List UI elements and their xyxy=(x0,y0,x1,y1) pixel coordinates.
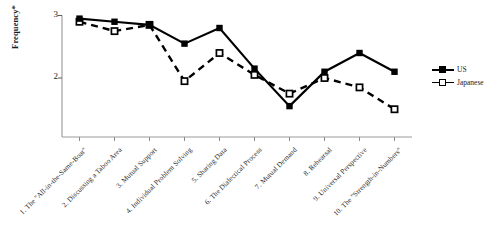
data-point-japanese-8 xyxy=(321,75,327,81)
chart-figure: Frequency* 3 2 1. The "All-in-the-Same-B… xyxy=(0,0,501,251)
legend-label-japanese: Japanese xyxy=(457,79,484,87)
data-point-us-7 xyxy=(286,103,292,109)
data-point-us-3 xyxy=(146,22,152,28)
series-line-us xyxy=(80,19,395,107)
data-point-japanese-2 xyxy=(111,28,117,34)
data-point-japanese-7 xyxy=(286,91,292,97)
data-point-us-8 xyxy=(321,69,327,75)
legend-item-us: US xyxy=(432,63,484,76)
series-us xyxy=(76,15,397,109)
x-axis-ticks xyxy=(80,137,395,141)
series-japanese xyxy=(76,19,397,113)
data-point-us-1 xyxy=(76,15,82,21)
data-point-japanese-9 xyxy=(356,84,362,90)
data-point-us-6 xyxy=(251,65,257,71)
legend-label-us: US xyxy=(457,66,467,74)
data-point-us-10 xyxy=(391,69,397,75)
data-point-us-9 xyxy=(356,50,362,56)
data-point-japanese-6 xyxy=(251,72,257,78)
data-point-japanese-4 xyxy=(181,78,187,84)
legend-item-japanese: Japanese xyxy=(432,76,484,89)
legend-marker-us-icon xyxy=(432,65,454,75)
data-point-japanese-5 xyxy=(216,50,222,56)
data-point-us-4 xyxy=(181,40,187,46)
data-point-us-2 xyxy=(111,19,117,25)
data-point-us-5 xyxy=(216,25,222,31)
legend-marker-japanese-icon xyxy=(432,78,454,88)
chart-plot-area xyxy=(0,0,501,251)
data-point-japanese-10 xyxy=(391,106,397,112)
series-line-japanese xyxy=(80,22,395,110)
chart-legend: US Japanese xyxy=(432,63,484,89)
